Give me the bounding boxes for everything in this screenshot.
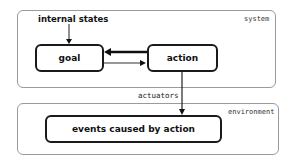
arrow-action-to-events [179,72,185,115]
arrow-action-to-goal [104,48,147,56]
arrow-goal-to-action [104,60,146,66]
arrow-internal-to-goal [66,24,72,44]
arrows-layer [0,0,294,161]
